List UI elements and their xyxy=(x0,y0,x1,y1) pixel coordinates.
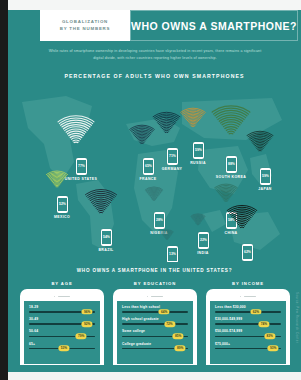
country-percentage: 22% xyxy=(200,238,207,242)
camera-icon xyxy=(240,296,242,298)
stat-row-label: Less than $30,000 xyxy=(215,305,281,309)
stat-slider-track[interactable]: 93% xyxy=(215,348,281,349)
stat-slider-knob[interactable]: 83% xyxy=(264,333,275,339)
stat-slider-track[interactable]: 79% xyxy=(29,336,95,337)
country-percentage: 65% xyxy=(145,164,152,168)
signal-fan xyxy=(178,107,208,129)
signal-fan xyxy=(224,204,260,230)
country-percentage: 59% xyxy=(195,148,202,152)
phone-screen: 62% xyxy=(243,246,252,259)
phone-screen: 77% xyxy=(77,160,86,173)
stat-row-label: Less than high school xyxy=(122,305,188,309)
stat-slider-track[interactable]: 62% xyxy=(215,311,281,312)
panel-title: BY AGE xyxy=(20,281,104,286)
stat-row-label: $30,000-$49,999 xyxy=(215,317,281,321)
stat-slider-knob[interactable]: 85% xyxy=(173,333,184,339)
stat-slider-knob[interactable]: 53% xyxy=(58,346,69,352)
stat-row: 18-2996% xyxy=(29,305,95,313)
country-phone-marker: 88% xyxy=(226,156,237,173)
stat-slider-track[interactable]: 92% xyxy=(29,323,95,324)
country-percentage: 28% xyxy=(156,218,163,222)
stat-slider-knob[interactable]: 92% xyxy=(81,321,92,327)
device-screen: Less than high school64%High school grad… xyxy=(117,301,193,364)
stat-slider-knob[interactable]: 96% xyxy=(81,309,92,315)
top-margin-strip xyxy=(8,0,301,10)
signal-fan xyxy=(159,229,175,241)
map-section-label: PERCENTAGE OF ADULTS WHO OWN SMARTPHONES xyxy=(8,73,301,79)
stat-panel: BY AGE18-2996%30-4992%50-6479%65+53% xyxy=(20,281,104,369)
speaker-icon xyxy=(244,296,256,297)
stat-slider-knob[interactable]: 89% xyxy=(174,346,185,352)
stat-row: $75,000+93% xyxy=(215,342,281,350)
stat-row: Less than high school64% xyxy=(122,305,188,313)
phone-device: 18-2996%30-4992%50-6479%65+53% xyxy=(20,289,104,365)
device-notch xyxy=(24,294,100,299)
stat-slider-track[interactable]: 72% xyxy=(122,323,188,324)
stat-slider-knob[interactable]: 62% xyxy=(250,309,261,315)
stat-slider-track[interactable]: 96% xyxy=(29,311,95,312)
phone-device: Less than high school64%High school grad… xyxy=(113,289,197,365)
signal-fan xyxy=(54,114,98,146)
stat-slider-track[interactable]: 64% xyxy=(122,311,188,312)
phone-screen: 52% xyxy=(58,198,67,211)
country-phone-marker: 13% xyxy=(167,246,178,262)
phone-screen: 59% xyxy=(261,170,270,183)
signal-fan xyxy=(44,170,70,189)
country-label: MEXICO xyxy=(54,215,70,219)
stat-row: High school graduate72% xyxy=(122,317,188,325)
stat-row-label: High school graduate xyxy=(122,317,188,321)
phone-device: Less than $30,00062%$30,000-$49,99974%$5… xyxy=(206,289,290,365)
brand-logo-line-1: GLOBALIZATION xyxy=(62,19,108,26)
phone-screen: 65% xyxy=(144,160,153,173)
device-screen: 18-2996%30-4992%50-6479%65+53% xyxy=(24,301,100,364)
device-notch xyxy=(117,294,193,299)
speaker-icon xyxy=(151,296,163,297)
panel-title: BY INCOME xyxy=(206,281,290,286)
stat-slider-track[interactable]: 89% xyxy=(122,348,188,349)
country-percentage: 62% xyxy=(244,250,251,254)
stat-row: 30-4992% xyxy=(29,317,95,325)
phone-screen: 88% xyxy=(227,158,236,171)
stat-row: $50,000-$74,99983% xyxy=(215,329,281,337)
stat-row: Less than $30,00062% xyxy=(215,305,281,313)
infographic-poster: GLOBALIZATION BY THE NUMBERS WHO OWNS A … xyxy=(8,0,301,380)
signal-fan xyxy=(82,188,120,215)
signal-fan xyxy=(244,130,276,153)
phone-screen: 22% xyxy=(199,234,208,247)
country-phone-marker: 62% xyxy=(242,244,253,261)
country-percentage: 88% xyxy=(228,162,235,166)
country-phone-marker: 22% xyxy=(198,232,209,249)
stat-row: 65+53% xyxy=(29,342,95,350)
stat-slider-track[interactable]: 53% xyxy=(29,348,95,349)
title-container: WHO OWNS A SMARTPHONE? xyxy=(130,10,298,41)
phone-screen: 71% xyxy=(168,150,177,163)
country-percentage: 52% xyxy=(59,202,66,206)
country-label: INDIA xyxy=(197,251,209,255)
country-phone-marker: 59% xyxy=(193,142,204,159)
stat-slider-knob[interactable]: 93% xyxy=(267,346,278,352)
country-phone-marker: 52% xyxy=(57,196,68,213)
country-phone-marker: 28% xyxy=(154,212,165,229)
header: GLOBALIZATION BY THE NUMBERS WHO OWNS A … xyxy=(8,10,301,43)
stat-slider-track[interactable]: 83% xyxy=(215,336,281,337)
stat-slider-knob[interactable]: 64% xyxy=(159,309,170,315)
stat-slider-knob[interactable]: 72% xyxy=(164,321,175,327)
camera-icon xyxy=(147,296,149,298)
phone-screen: 13% xyxy=(168,248,177,261)
signal-fan xyxy=(143,186,165,202)
camera-icon xyxy=(54,296,56,298)
stat-slider-knob[interactable]: 74% xyxy=(258,321,269,327)
country-phone-marker: 54% xyxy=(101,229,112,246)
bottom-margin-strip xyxy=(8,372,301,380)
page-title: WHO OWNS A SMARTPHONE? xyxy=(131,20,297,32)
speaker-icon xyxy=(58,296,70,297)
country-percentage: 54% xyxy=(103,235,110,239)
stat-slider-track[interactable]: 74% xyxy=(215,323,281,324)
stat-slider-knob[interactable]: 79% xyxy=(76,333,87,339)
device-notch xyxy=(210,294,286,299)
country-label: RUSSIA xyxy=(190,161,206,165)
world-map: 77%UNITED STATES52%MEXICO54%BRAZIL65%FRA… xyxy=(14,84,295,262)
phone-screen: 28% xyxy=(155,214,164,227)
us-panels: BY AGE18-2996%30-4992%50-6479%65+53%BY E… xyxy=(20,281,290,369)
stat-slider-track[interactable]: 85% xyxy=(122,336,188,337)
